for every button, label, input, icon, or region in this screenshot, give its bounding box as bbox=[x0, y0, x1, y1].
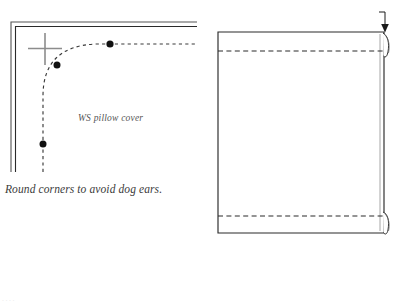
arrowhead-icon bbox=[381, 24, 389, 33]
ws-pillow-cover-label-left: WS pillow cover bbox=[78, 113, 143, 123]
figure-wrap-corners: Sew or serge WS pillow cover Wrap corner… bbox=[204, 0, 407, 306]
round-corner-svg bbox=[0, 0, 204, 306]
wrap-corner-svg bbox=[204, 0, 407, 306]
sew-or-serge-arrow bbox=[379, 12, 389, 33]
cross-mark-icon bbox=[28, 33, 62, 65]
figure-round-corners: WS pillow cover Round corners to avoid d… bbox=[0, 0, 204, 306]
diagram-page: WS pillow cover Round corners to avoid d… bbox=[0, 0, 407, 306]
top-right-fabric-flap bbox=[383, 33, 389, 57]
pin-dot-middle bbox=[54, 62, 61, 69]
rounded-stitch-dashed-curve bbox=[43, 44, 197, 172]
caption-round-corners: Round corners to avoid dog ears. bbox=[5, 183, 162, 195]
pin-dot-lower bbox=[40, 141, 47, 148]
pin-dot-upper bbox=[106, 40, 113, 47]
pillow-cover-body-rect bbox=[218, 32, 384, 233]
bottom-edge-artifact: · · · · bbox=[2, 297, 14, 305]
bottom-right-fabric-flap bbox=[383, 212, 389, 234]
